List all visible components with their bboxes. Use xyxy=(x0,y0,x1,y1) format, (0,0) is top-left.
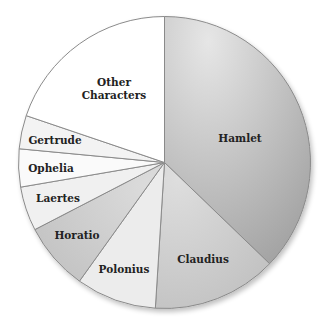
slice-label-ophelia: Ophelia xyxy=(28,162,74,174)
slice-label-laertes: Laertes xyxy=(36,192,80,204)
slice-label-claudius: Claudius xyxy=(177,253,229,265)
slice-label-hamlet: Hamlet xyxy=(218,132,262,144)
pie-chart: HamletClaudiusPoloniusHoratioLaertesOphe… xyxy=(0,0,323,318)
slice-label-horatio: Horatio xyxy=(54,229,99,241)
slice-label-gertrude: Gertrude xyxy=(28,134,82,146)
slice-label-polonius: Polonius xyxy=(99,263,150,275)
